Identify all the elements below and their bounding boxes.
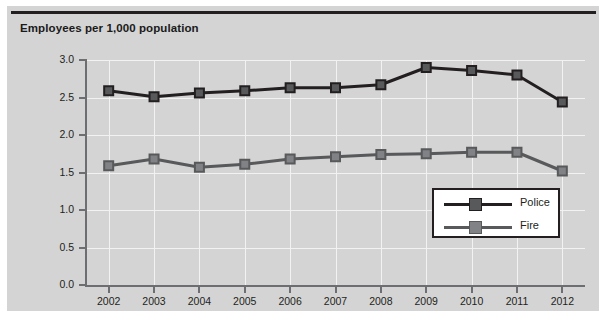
data-point-marker [286,83,295,92]
x-axis-tick-label: 2009 [404,295,448,307]
data-point-marker [104,161,113,170]
x-axis-tick [289,287,291,293]
x-axis-tick-label: 2007 [314,295,358,307]
data-point-marker [376,80,385,89]
data-point-marker [150,155,159,164]
legend-label: Police [520,196,550,208]
y-axis-tick [79,209,85,211]
data-point-marker [240,160,249,169]
chart-figure: Employees per 1,000 population 0.00.51.0… [0,0,606,315]
chart-legend[interactable]: PoliceFire [432,188,560,238]
legend-item-fire[interactable]: Fire [434,216,558,239]
x-axis-tick [335,287,337,293]
data-point-marker [376,150,385,159]
legend-label: Fire [520,219,539,231]
data-point-marker [558,98,567,107]
y-axis-tick [79,172,85,174]
x-axis-tick-label: 2008 [359,295,403,307]
y-axis-tick-label: 2.5 [34,91,74,103]
data-point-marker [240,86,249,95]
legend-item-police[interactable]: Police [434,193,558,216]
x-axis-tick-label: 2005 [223,295,267,307]
data-point-marker [422,63,431,72]
y-axis-tick-label: 0.0 [34,278,74,290]
x-axis-tick-label: 2002 [87,295,131,307]
x-axis-tick [425,287,427,293]
data-point-marker [467,148,476,157]
legend-marker-swatch [469,198,482,211]
x-axis-tick [244,287,246,293]
y-axis-tick [79,97,85,99]
data-series-layer [86,60,585,285]
canvas-edge-left [0,0,7,315]
x-axis-tick [516,287,518,293]
y-axis-tick-label: 1.0 [34,203,74,215]
data-point-marker [558,167,567,176]
x-axis-tick-label: 2003 [132,295,176,307]
x-axis-tick-label: 2011 [495,295,539,307]
x-axis-tick [471,287,473,293]
data-point-marker [150,92,159,101]
data-point-marker [422,149,431,158]
data-point-marker [467,66,476,75]
x-axis-tick-label: 2006 [268,295,312,307]
data-point-marker [104,86,113,95]
canvas-edge-bottom [0,311,606,315]
data-point-marker [512,148,521,157]
y-axis-tick [79,134,85,136]
data-point-marker [512,71,521,80]
canvas-edge-top [0,0,606,6]
y-axis-tick [79,284,85,286]
x-axis-tick [380,287,382,293]
y-axis-line [85,59,87,286]
data-point-marker [195,163,204,172]
x-axis-tick-label: 2010 [450,295,494,307]
x-axis-tick [108,287,110,293]
y-axis-tick-label: 2.0 [34,128,74,140]
x-axis-tick-label: 2012 [540,295,584,307]
plot-area [86,60,585,285]
data-point-marker [331,152,340,161]
x-axis-tick-label: 2004 [177,295,221,307]
x-axis-tick [198,287,200,293]
y-axis-tick [79,59,85,61]
legend-marker-swatch [469,221,482,234]
data-point-marker [286,155,295,164]
x-axis-tick [153,287,155,293]
y-axis-tick [79,247,85,249]
x-axis-tick [561,287,563,293]
canvas-edge-right [599,0,606,315]
header-divider [11,11,596,14]
data-point-marker [331,83,340,92]
data-point-marker [195,89,204,98]
chart-title: Employees per 1,000 population [20,22,199,34]
y-axis-tick-label: 1.5 [34,166,74,178]
y-axis-tick-label: 3.0 [34,53,74,65]
y-axis-tick-label: 0.5 [34,241,74,253]
